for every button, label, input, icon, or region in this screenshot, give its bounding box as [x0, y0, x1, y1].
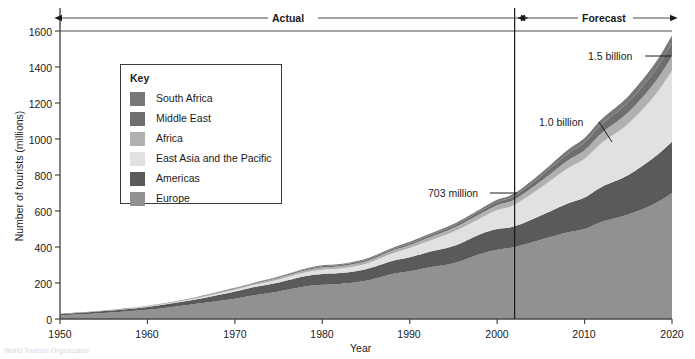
legend-item-south-africa: South Africa — [130, 91, 213, 106]
y-tick-label-1200: 1200 — [10, 99, 52, 110]
callout-label-1-5-billion: 1.5 billion — [588, 51, 632, 62]
y-tick-label-0: 0 — [10, 315, 52, 326]
x-tick-label-1970: 1970 — [211, 329, 259, 340]
x-tick-label-1990: 1990 — [385, 329, 433, 340]
legend-swatch-africa — [130, 132, 145, 146]
y-tick-label-400: 400 — [10, 243, 52, 254]
callout-label-1-0-billion: 1.0 billion — [539, 117, 583, 128]
x-tick-label-2020: 2020 — [648, 329, 695, 340]
legend-box: Key South Africa Middle East Africa East… — [120, 64, 282, 204]
y-tick-marks — [55, 31, 60, 319]
legend-item-africa: Africa — [130, 131, 183, 146]
legend-item-middle-east: Middle East — [130, 111, 211, 126]
y-tick-label-600: 600 — [10, 207, 52, 218]
x-tick-label-2000: 2000 — [473, 329, 521, 340]
legend-item-europe: Europe — [130, 191, 190, 206]
legend-label-americas: Americas — [156, 173, 200, 184]
legend-item-east-asia-and-the-pacific: East Asia and the Pacific — [130, 151, 272, 166]
callout-label-703-million: 703 million — [428, 188, 478, 199]
x-tick-label-1960: 1960 — [123, 329, 171, 340]
legend-swatch-americas — [130, 172, 145, 186]
source-footnote: World Tourism Organization — [4, 347, 90, 354]
x-tick-marks — [60, 319, 672, 324]
legend-label-south-africa: South Africa — [156, 93, 213, 104]
legend-item-americas: Americas — [130, 171, 200, 186]
x-tick-label-1980: 1980 — [298, 329, 346, 340]
legend-title: Key — [130, 73, 149, 84]
legend-label-africa: Africa — [156, 133, 183, 144]
y-tick-label-1000: 1000 — [10, 135, 52, 146]
period-label-actual: Actual — [272, 13, 304, 24]
legend-swatch-middle-east — [130, 112, 145, 126]
chart-figure: Number of tourists (millions) 1600 1400 … — [0, 0, 695, 359]
x-tick-label-1950: 1950 — [36, 329, 84, 340]
x-axis-title: Year — [350, 343, 371, 354]
y-tick-label-1400: 1400 — [10, 63, 52, 74]
legend-label-middle-east: Middle East — [156, 113, 211, 124]
y-tick-label-1600: 1600 — [10, 27, 52, 38]
x-tick-label-2010: 2010 — [560, 329, 608, 340]
y-tick-label-800: 800 — [10, 171, 52, 182]
legend-label-east-asia-and-the-pacific: East Asia and the Pacific — [156, 153, 272, 164]
y-tick-label-200: 200 — [10, 279, 52, 290]
legend-label-europe: Europe — [156, 193, 190, 204]
legend-swatch-europe — [130, 192, 145, 206]
legend-swatch-south-africa — [130, 92, 145, 106]
period-label-forecast: Forecast — [582, 13, 626, 24]
legend-swatch-east-asia-and-the-pacific — [130, 152, 145, 166]
